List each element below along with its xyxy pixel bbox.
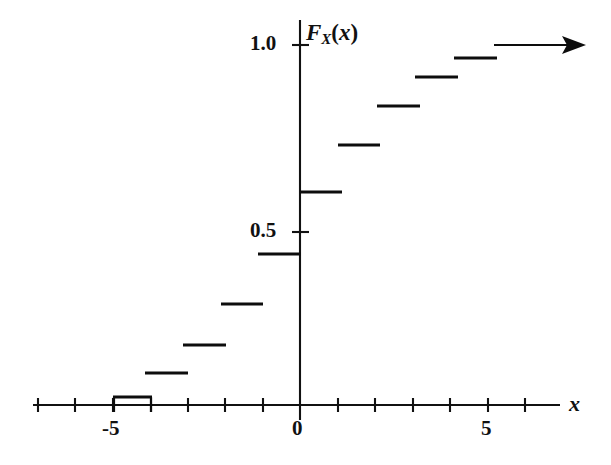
axes-group — [33, 20, 560, 420]
y-axis-title: FX(x) — [306, 21, 358, 47]
plot-canvas — [0, 0, 611, 465]
y-axis-title-argument: (x) — [331, 20, 358, 45]
y-tick-label-1.0: 1.0 — [250, 33, 276, 54]
x-tick-label-0: 0 — [292, 418, 303, 439]
x-tick-label-5: 5 — [481, 418, 492, 439]
step-function-curve — [113, 58, 497, 412]
x-tick-label--5: -5 — [102, 418, 120, 439]
y-axis-title-main: F — [306, 20, 321, 45]
y-tick-label-0.5: 0.5 — [250, 220, 276, 241]
cdf-plot-figure: 1.0 0.5 -5 0 5 FX(x) x — [0, 0, 611, 465]
y-axis-title-subscript: X — [321, 31, 331, 47]
terminal-arrow — [494, 36, 586, 54]
x-axis-title: x — [569, 393, 580, 415]
